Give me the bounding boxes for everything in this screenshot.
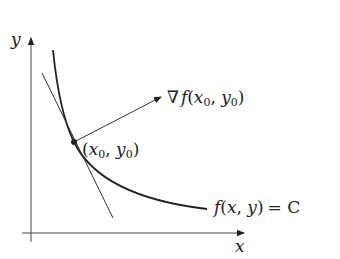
point-label: (x0, y0) bbox=[82, 139, 139, 161]
tangent-line bbox=[42, 73, 113, 218]
y-axis-label: y bbox=[10, 29, 21, 49]
x-axis-label: x bbox=[235, 236, 245, 256]
point-x0-y0 bbox=[71, 139, 77, 145]
level-curve bbox=[53, 50, 207, 209]
level-curve-diagram: y x ∇f(x0, y0) (x0, y0) f(x, y)= C bbox=[0, 0, 340, 259]
gradient-vector bbox=[74, 97, 161, 142]
nabla-symbol: ∇ bbox=[167, 87, 179, 107]
gradient-label: ∇f(x0, y0) bbox=[167, 87, 244, 109]
curve-label: f(x, y)= C bbox=[212, 197, 300, 217]
